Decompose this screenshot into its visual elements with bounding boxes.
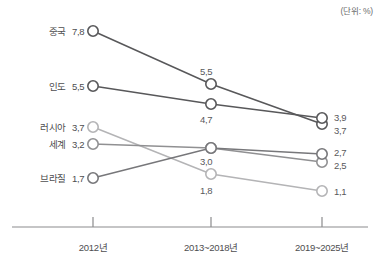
data-point-marker [206, 99, 216, 109]
chart-plot-area [0, 0, 379, 269]
data-point-marker [206, 79, 216, 89]
point-label-russia-mid: 1,8 [200, 185, 212, 196]
data-point-marker [206, 169, 216, 179]
series-label-india: 인도5,5 [30, 79, 92, 93]
x-tick-label-2012: 2012년 [79, 240, 108, 254]
data-point-marker [317, 186, 327, 196]
series-label-china: 중국7,8 [30, 24, 92, 38]
point-label-russia-right: 1,1 [334, 186, 346, 197]
series-name: 인도 [30, 79, 66, 93]
data-point-marker [317, 149, 327, 159]
point-label-china-mid: 5,5 [200, 66, 212, 77]
x-tick-label-2019-2025: 2019~2025년 [295, 240, 349, 254]
x-tick-label-2013-2018: 2013~2018년 [184, 240, 238, 254]
series-label-world: 세계3,2 [30, 137, 92, 151]
series-value: 3,2 [72, 139, 92, 150]
series-name: 세계 [30, 137, 66, 151]
series-name: 중국 [30, 24, 66, 38]
line-chart-figure: (단위: %) [0, 0, 379, 269]
series-value: 1,7 [72, 173, 92, 184]
point-label-world-right: 2,5 [334, 160, 346, 171]
series-value: 5,5 [72, 81, 92, 92]
series-label-brazil: 브라질1,7 [30, 171, 92, 185]
point-label-brazil-right: 2,7 [334, 147, 346, 158]
data-point-marker [206, 143, 216, 153]
x-axis [12, 217, 368, 227]
point-label-brazil-mid: 3,0 [200, 156, 212, 167]
point-label-china-right: 3,7 [334, 125, 346, 136]
series-label-russia: 러시아3,7 [30, 120, 92, 134]
series-value: 7,8 [72, 26, 92, 37]
series-name: 러시아 [30, 120, 66, 134]
point-label-india-right: 3,9 [334, 112, 346, 123]
point-label-india-mid: 4,7 [200, 114, 212, 125]
series-value: 3,7 [72, 122, 92, 133]
data-point-marker [317, 113, 327, 123]
series-name: 브라질 [30, 171, 66, 185]
